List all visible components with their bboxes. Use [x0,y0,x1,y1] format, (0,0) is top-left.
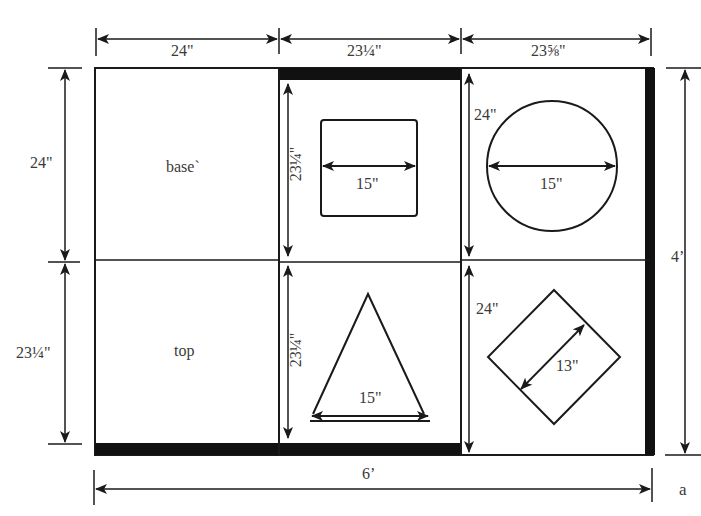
diamond-dimension-label: 13" [556,358,579,374]
row-2-height-label: 23¼" [16,345,51,361]
circle-panel-height-label: 24" [474,107,497,123]
triangle-panel-height-label: 23¼" [288,333,304,368]
thick-right-edge [645,68,655,455]
panel-base-label: base` [166,159,200,175]
square-dimension-label: 15" [356,176,379,192]
column-2-width-label: 23¼" [347,43,382,59]
diamond-cutout [488,290,620,424]
thick-top-edge [279,68,461,80]
figure-label: a [679,481,687,498]
square-panel-height-label: 23¼" [288,147,304,182]
column-3-width-label: 23⅝" [531,43,566,59]
circle-dimension-label: 15" [540,176,563,192]
left-dimension [48,68,82,444]
row-1-height-label: 24" [30,155,53,171]
cutting-diagram [0,0,701,516]
overall-height-label: 4’ [671,249,684,265]
square-cutout [321,120,417,216]
triangle-dimension-label: 15" [359,390,382,406]
column-1-width-label: 24" [171,43,194,59]
diamond-panel-height-label: 24" [476,301,499,317]
panel-top-label: top [174,343,194,359]
overall-width-label: 6’ [362,466,375,482]
circle-cutout [487,101,617,231]
